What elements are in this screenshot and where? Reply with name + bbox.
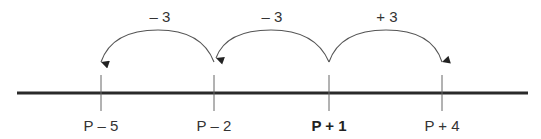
jump-arc-p-plus-1-to-p-minus-2 (216, 30, 329, 62)
jump-label-middle: – 3 (262, 8, 283, 25)
jump-label-left: – 3 (150, 8, 171, 25)
number-line-diagram: – 3 – 3 + 3 P – 5 P – 2 P + 1 P + 4 (0, 0, 541, 139)
point-label-p-plus-1: P + 1 (311, 117, 346, 134)
point-label-p-minus-2: P – 2 (197, 117, 232, 134)
jump-label-right: + 3 (376, 8, 397, 25)
jump-arc-p-minus-2-to-p-minus-5 (101, 30, 214, 62)
point-label-p-plus-4: P + 4 (424, 117, 459, 134)
point-label-p-minus-5: P – 5 (84, 117, 119, 134)
jump-arc-p-plus-1-to-p-plus-4 (329, 30, 442, 62)
